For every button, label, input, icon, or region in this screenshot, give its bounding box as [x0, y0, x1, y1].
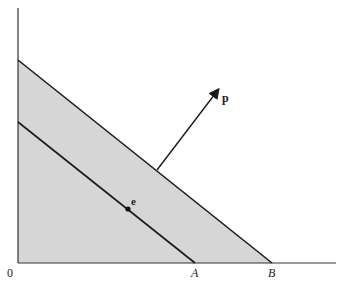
label-e: e [131, 195, 136, 207]
label-a: A [190, 266, 199, 280]
endowment-point [125, 206, 130, 211]
price-vector-arrow [157, 90, 218, 170]
budget-diagram: 0 A B p e [0, 0, 344, 292]
label-b: B [268, 266, 276, 280]
label-p: p [222, 91, 229, 105]
origin-label: 0 [7, 266, 13, 280]
